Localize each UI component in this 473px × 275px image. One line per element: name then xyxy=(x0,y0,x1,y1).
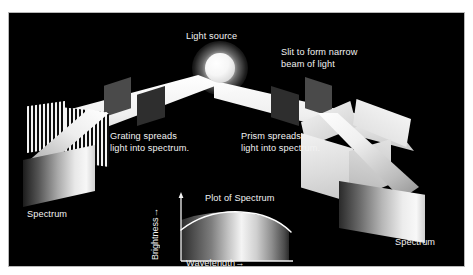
diagram-panel: Light source Slit to form narrow beam of… xyxy=(8,12,465,267)
spectrum-plot-ylabel: Brightness→ xyxy=(148,201,162,267)
label-light-source: Light source xyxy=(186,31,237,43)
label-grating: Grating spreads light into spectrum. xyxy=(110,131,189,154)
spectrum-plot-title: Plot of Spectrum xyxy=(205,193,275,205)
xlabel-arrow-icon: → xyxy=(235,258,244,267)
figure-root: Light source Slit to form narrow beam of… xyxy=(0,0,473,275)
ylabel-text: Brightness xyxy=(150,217,160,260)
spectrum-plot-xlabel: Wavelength→ xyxy=(186,258,244,267)
ylabel-arrow-icon: → xyxy=(150,208,160,217)
xlabel-text: Wavelength xyxy=(186,258,235,267)
spectrum-band-left xyxy=(23,145,95,207)
label-prism: Prism spreads light into spectrum. xyxy=(241,131,320,154)
label-spectrum-right: Spectrum xyxy=(395,237,435,249)
slit-block-right-inner xyxy=(271,86,299,126)
label-spectrum-left: Spectrum xyxy=(27,209,67,221)
light-source-icon xyxy=(205,53,235,83)
label-slit: Slit to form narrow beam of light xyxy=(281,47,357,70)
